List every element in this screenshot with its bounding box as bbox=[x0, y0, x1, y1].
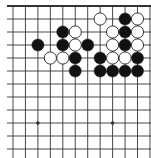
white-stone bbox=[69, 26, 81, 38]
black-stone bbox=[119, 26, 131, 38]
star-point bbox=[111, 121, 115, 125]
black-stone bbox=[119, 65, 131, 77]
black-stone bbox=[131, 52, 143, 64]
white-stone bbox=[107, 52, 119, 64]
white-stone bbox=[107, 26, 119, 38]
white-stone bbox=[94, 13, 106, 25]
white-stone bbox=[69, 39, 81, 51]
white-stone bbox=[131, 13, 143, 25]
star-point bbox=[36, 121, 40, 125]
white-stone bbox=[57, 52, 69, 64]
black-stone bbox=[32, 39, 44, 51]
white-stone bbox=[44, 52, 56, 64]
white-stone bbox=[107, 39, 119, 51]
black-stone bbox=[82, 39, 94, 51]
black-stone bbox=[119, 13, 131, 25]
go-board-canvas[interactable] bbox=[0, 0, 151, 158]
black-stone bbox=[107, 65, 119, 77]
black-stone bbox=[94, 52, 106, 64]
black-stone bbox=[119, 39, 131, 51]
black-stone bbox=[57, 26, 69, 38]
black-stone bbox=[131, 65, 143, 77]
black-stone bbox=[94, 65, 106, 77]
go-board[interactable] bbox=[0, 0, 151, 158]
white-stone bbox=[131, 39, 143, 51]
black-stone bbox=[69, 65, 81, 77]
white-stone bbox=[119, 52, 131, 64]
black-stone bbox=[69, 52, 81, 64]
white-stone bbox=[131, 26, 143, 38]
black-stone bbox=[57, 39, 69, 51]
